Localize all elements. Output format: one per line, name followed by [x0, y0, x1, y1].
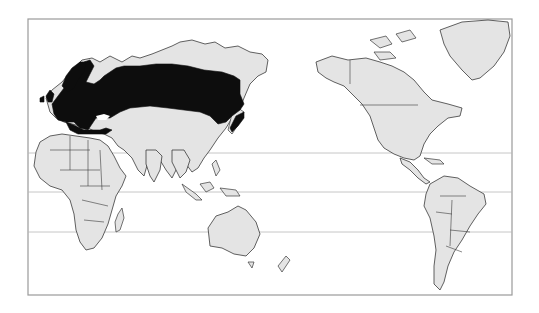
caribbean-islands: [424, 158, 444, 164]
philippines-islands: [212, 160, 220, 176]
greenland-landmass: [440, 20, 510, 80]
madagascar-island: [115, 208, 124, 232]
tasmania-island: [248, 262, 254, 268]
south-america-landmass: [424, 176, 486, 290]
world-distribution-map: [0, 0, 539, 313]
india-landmass: [146, 150, 162, 182]
north-america-landmass: [316, 56, 462, 160]
new-zealand-islands: [278, 256, 290, 272]
indonesia-islands: [182, 182, 240, 200]
central-america-landmass: [400, 158, 430, 184]
arctic-archipelago: [370, 30, 416, 60]
australia-landmass: [208, 206, 260, 256]
